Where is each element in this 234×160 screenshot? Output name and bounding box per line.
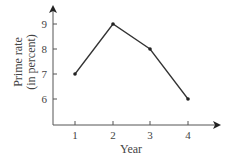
- line-chart: 9 8 7 6 1 2 3 4 Year Prime rate (in perc…: [0, 0, 234, 160]
- x-tick-label-1: 1: [72, 129, 78, 141]
- y-tick-label-7: 7: [42, 68, 48, 80]
- x-axis-label: Year: [120, 142, 142, 156]
- data-point-4: [186, 97, 190, 101]
- data-point-1: [73, 72, 77, 76]
- y-tick-label-8: 8: [42, 43, 48, 55]
- y-axis-label-line1: Prime rate: [11, 37, 25, 87]
- data-point-3: [148, 47, 152, 51]
- y-tick-label-6: 6: [42, 93, 48, 105]
- y-ticks: [53, 24, 57, 99]
- x-tick-label-4: 4: [185, 129, 191, 141]
- data-line: [75, 24, 188, 99]
- x-tick-label-3: 3: [147, 129, 153, 141]
- y-axis-label-line2: (in percent): [24, 34, 38, 90]
- x-tick-label-2: 2: [110, 129, 116, 141]
- y-tick-label-9: 9: [42, 18, 48, 30]
- data-point-2: [111, 22, 115, 26]
- x-ticks: [75, 121, 188, 125]
- data-points: [73, 22, 190, 101]
